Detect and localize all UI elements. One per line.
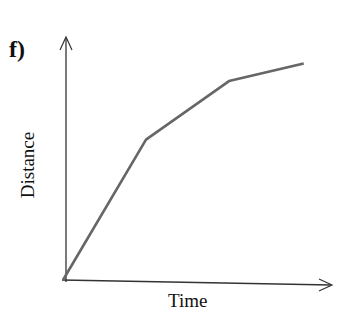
data-line [63,64,304,281]
y-axis [60,37,72,282]
y-axis-label: Distance [17,132,39,198]
chart-plot [0,0,348,322]
x-axis-label: Time [168,290,207,312]
